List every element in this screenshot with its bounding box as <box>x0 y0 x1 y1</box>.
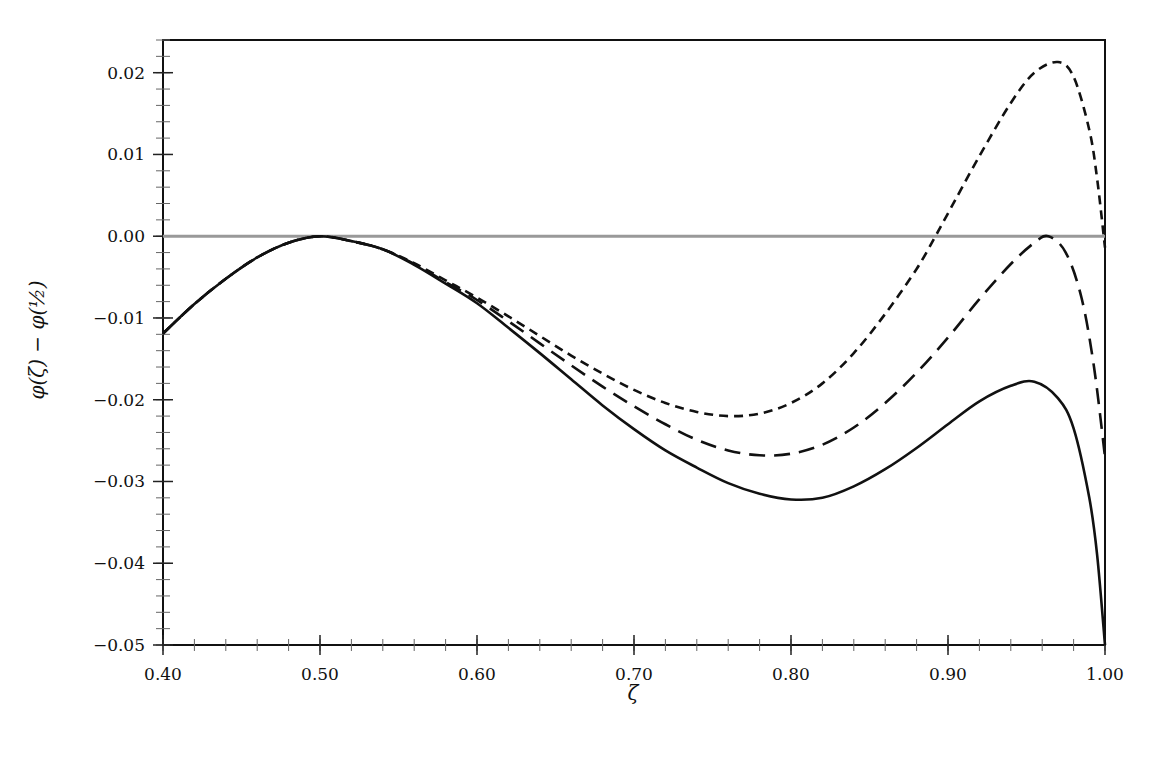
y-axis-title: φ(ζ) − φ(½) <box>25 281 49 400</box>
series-layer <box>163 62 1105 645</box>
x-tick-label: 0.40 <box>144 664 182 684</box>
y-tick-label: 0.02 <box>107 63 145 83</box>
series-solid <box>163 236 1105 645</box>
y-tick-label: 0.01 <box>107 144 145 164</box>
y-axis-tick-labels: 0.020.010.00−0.01−0.02−0.03−0.04−0.05 <box>93 63 145 655</box>
line-chart: 0.400.500.600.700.800.901.00 0.020.010.0… <box>0 0 1165 768</box>
x-tick-label: 0.90 <box>929 664 967 684</box>
minor-ticks <box>156 40 1105 651</box>
x-axis-title: ζ <box>628 681 640 705</box>
x-tick-label: 0.60 <box>458 664 496 684</box>
series-long-dash <box>163 236 1105 457</box>
y-tick-label: −0.04 <box>93 553 145 573</box>
x-tick-label: 1.00 <box>1086 664 1124 684</box>
major-ticks <box>153 73 1105 655</box>
x-tick-label: 0.50 <box>301 664 339 684</box>
y-tick-label: 0.00 <box>107 226 145 246</box>
x-tick-label: 0.80 <box>772 664 810 684</box>
plot-border <box>163 40 1105 645</box>
series-short-dash <box>163 62 1105 416</box>
y-tick-label: −0.05 <box>93 635 145 655</box>
plot-frame <box>163 40 1105 645</box>
y-tick-label: −0.01 <box>93 308 145 328</box>
y-tick-label: −0.03 <box>93 471 145 491</box>
y-tick-label: −0.02 <box>93 390 145 410</box>
